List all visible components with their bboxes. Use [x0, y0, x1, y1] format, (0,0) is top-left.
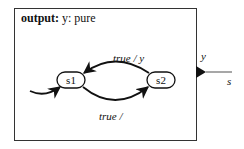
state-label-s1: s1	[66, 74, 76, 86]
state-s1[interactable]: s1	[57, 72, 85, 88]
output-port-label: y	[200, 50, 206, 62]
output-port-icon[interactable]	[196, 66, 206, 78]
separator-text: /	[131, 52, 140, 64]
state-label-s2: s2	[156, 74, 166, 86]
declaration-rest: y: pure	[59, 11, 96, 25]
state-s2[interactable]: s2	[147, 72, 175, 88]
transition-label-s2-s1: true / y	[113, 52, 144, 64]
output-text: y	[138, 52, 144, 64]
declaration-keyword: output:	[21, 11, 59, 25]
output-declaration: output: y: pure	[21, 11, 96, 25]
transition-label-s1-s2: true /	[99, 110, 123, 122]
connection-label: s	[227, 75, 231, 87]
state-machine-diagram: output: y: pure y s true / y true / s1 s…	[0, 0, 244, 149]
guard-text: true	[113, 52, 131, 64]
